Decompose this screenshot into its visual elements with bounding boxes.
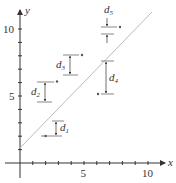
- x-axis: 5 10 x: [5, 156, 173, 179]
- x-tick-label-5: 5: [81, 167, 87, 179]
- d1-label: d1: [60, 121, 69, 135]
- d3-label: d3: [56, 58, 66, 72]
- residual-d3: d3: [56, 54, 83, 75]
- x-axis-label: x: [167, 156, 173, 168]
- residual-d2: d2: [31, 80, 58, 102]
- y-axis-label: y: [24, 4, 30, 16]
- y-tick-label-10: 10: [3, 23, 15, 35]
- y-tick-label-5: 5: [9, 90, 15, 102]
- fitted-line: [20, 12, 152, 148]
- x-tick-label-10: 10: [142, 167, 154, 179]
- d2-label: d2: [31, 85, 41, 99]
- y-axis: 5 10 y: [3, 4, 30, 178]
- residual-d5: d5: [101, 3, 121, 43]
- residual-d1: d1: [41, 121, 69, 137]
- d4-label: d4: [109, 71, 119, 85]
- d5-label: d5: [104, 3, 114, 17]
- scatter-diagram: 5 10 x 5 10 y d1: [0, 0, 176, 183]
